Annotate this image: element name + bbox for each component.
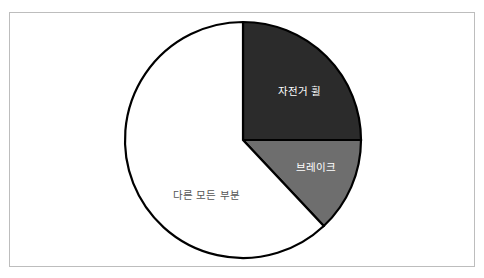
slice-label-other: 다른 모든 부분 (173, 189, 240, 201)
slice-wheel (243, 22, 361, 140)
pie-chart: 자전거 휠 브레이크 다른 모든 부분 (0, 0, 484, 278)
slice-label-wheel: 자전거 휠 (278, 85, 321, 97)
slice-label-brake: 브레이크 (296, 161, 336, 173)
pie-slices (125, 22, 361, 258)
